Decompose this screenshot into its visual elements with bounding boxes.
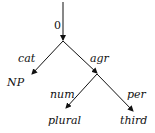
cat-edge bbox=[32, 41, 63, 74]
plural-leaf: plural bbox=[48, 114, 81, 127]
third-leaf: third bbox=[120, 114, 147, 127]
per-label: per bbox=[127, 88, 147, 101]
feature-tree: 0 cat agr per num NP plural third bbox=[0, 0, 155, 133]
cat-label: cat bbox=[18, 52, 36, 65]
num-label: num bbox=[50, 88, 75, 101]
agr-label: agr bbox=[90, 52, 110, 65]
np-leaf: NP bbox=[6, 76, 25, 89]
root-label: 0 bbox=[54, 19, 61, 32]
